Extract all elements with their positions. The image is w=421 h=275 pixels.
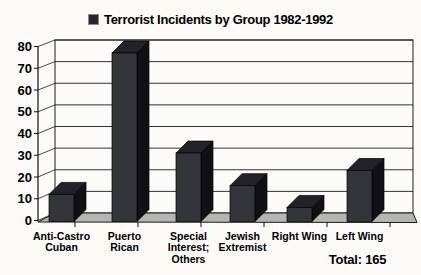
y-axis-label: 60: [18, 83, 32, 98]
x-category-label: Interest;: [168, 241, 209, 253]
x-category-label: Anti-Castro: [33, 230, 90, 242]
bar-left-wing: [347, 170, 372, 221]
x-category-label: Left Wing: [336, 230, 384, 242]
chart-container: Terrorist Incidents by Group 1982-1992 0…: [0, 0, 421, 275]
x-category-label: Puerto: [108, 230, 141, 242]
bar-right-wing: [287, 207, 312, 221]
bar-chart-3d: 01020304050607080Anti-CastroCubanPuertoR…: [0, 0, 421, 275]
y-axis-label: 80: [18, 39, 32, 54]
y-gridline-depth: [38, 40, 55, 47]
total-label: Total: 165: [300, 252, 415, 267]
y-axis-label: 30: [18, 148, 32, 163]
x-category-label: Cuban: [45, 241, 78, 253]
bar-side-special-interest-others: [201, 141, 213, 221]
x-category-label: Extremist: [219, 241, 267, 253]
x-category-label: Jewish: [225, 230, 260, 242]
y-axis-label: 10: [18, 191, 32, 206]
y-axis-label: 0: [25, 213, 32, 228]
x-category-label: Right Wing: [272, 230, 327, 242]
y-gridline-depth: [38, 62, 55, 69]
y-gridline-depth: [38, 170, 55, 177]
y-gridline-depth: [38, 127, 55, 134]
bar-jewish-extremist: [230, 186, 255, 222]
bar-anti-castro-cuban: [49, 194, 74, 221]
y-gridline-depth: [38, 148, 55, 155]
y-axis-label: 50: [18, 104, 32, 119]
y-axis-label: 20: [18, 170, 32, 185]
y-gridline-depth: [38, 83, 55, 90]
x-category-label: Special: [170, 230, 207, 242]
y-axis-label: 40: [18, 126, 32, 141]
y-axis-label: 70: [18, 61, 32, 76]
x-category-label: Rican: [110, 241, 139, 253]
x-category-label: Others: [172, 253, 206, 265]
bar-side-puerto-rican: [137, 41, 149, 221]
bar-special-interest-others: [176, 153, 201, 221]
y-gridline-depth: [38, 105, 55, 112]
bar-puerto-rican: [112, 53, 137, 221]
